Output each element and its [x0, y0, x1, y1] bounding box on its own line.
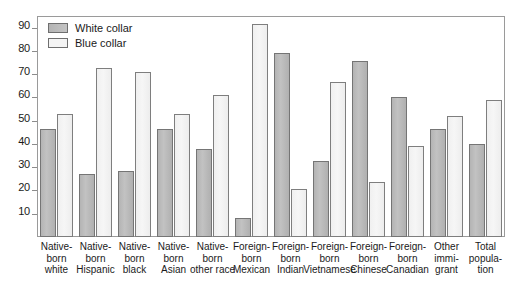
bar-blue-collar[interactable]: [447, 116, 463, 237]
bar-blue-collar[interactable]: [213, 95, 229, 237]
bar-group: [469, 16, 502, 237]
bar-white-collar[interactable]: [118, 171, 134, 237]
x-axis-labels: Native-bornwhiteNative-bornHispanicNativ…: [37, 241, 505, 301]
y-axis-tick-label: 90: [18, 20, 30, 31]
bar-blue-collar[interactable]: [57, 114, 73, 237]
y-axis-tick-label: 20: [18, 182, 30, 193]
legend-item: White collar: [48, 22, 132, 34]
y-axis-tick-label: 60: [18, 89, 30, 100]
y-axis-tick-label: 50: [18, 113, 30, 124]
bar-white-collar[interactable]: [391, 97, 407, 237]
bar-blue-collar[interactable]: [369, 182, 385, 237]
bar-white-collar[interactable]: [274, 53, 290, 237]
bar-white-collar[interactable]: [430, 129, 446, 237]
chart-legend: White collarBlue collar: [48, 22, 132, 52]
bar-blue-collar[interactable]: [252, 24, 268, 237]
x-axis-label-line: popula-: [459, 253, 512, 265]
bar-white-collar[interactable]: [196, 149, 212, 237]
bar-group: [196, 16, 229, 237]
bar-group: [235, 16, 268, 237]
bar-blue-collar[interactable]: [408, 146, 424, 237]
legend-swatch-icon: [48, 38, 68, 48]
bar-blue-collar[interactable]: [174, 114, 190, 237]
x-axis-label: Totalpopula-tion: [459, 241, 512, 276]
y-axis-tick-label: 10: [18, 206, 30, 217]
y-axis-tick-label: 80: [18, 43, 30, 54]
bar-white-collar[interactable]: [157, 129, 173, 237]
bar-white-collar[interactable]: [469, 144, 485, 237]
bar-group: [157, 16, 190, 237]
bar-blue-collar[interactable]: [135, 72, 151, 237]
bar-group: [391, 16, 424, 237]
y-axis-tick-label: 30: [18, 159, 30, 170]
bar-blue-collar[interactable]: [486, 100, 502, 237]
bar-chart: 102030405060708090 White collarBlue coll…: [0, 0, 520, 302]
bar-group: [352, 16, 385, 237]
legend-label: White collar: [75, 22, 132, 34]
bar-white-collar[interactable]: [40, 129, 56, 237]
bar-white-collar[interactable]: [235, 218, 251, 237]
bar-blue-collar[interactable]: [330, 82, 346, 237]
y-axis-tick-label: 70: [18, 66, 30, 77]
bar-blue-collar[interactable]: [96, 68, 112, 237]
bar-white-collar[interactable]: [352, 61, 368, 237]
bar-white-collar[interactable]: [79, 174, 95, 237]
bar-white-collar[interactable]: [313, 161, 329, 237]
bar-group: [274, 16, 307, 237]
legend-label: Blue collar: [75, 37, 126, 49]
bar-group: [313, 16, 346, 237]
legend-swatch-icon: [48, 23, 68, 33]
bar-group: [430, 16, 463, 237]
legend-item: Blue collar: [48, 37, 132, 49]
bar-blue-collar[interactable]: [291, 189, 307, 237]
y-axis-tick-label: 40: [18, 136, 30, 147]
x-axis-label-line: Total: [459, 241, 512, 253]
x-axis-label-line: tion: [459, 264, 512, 276]
